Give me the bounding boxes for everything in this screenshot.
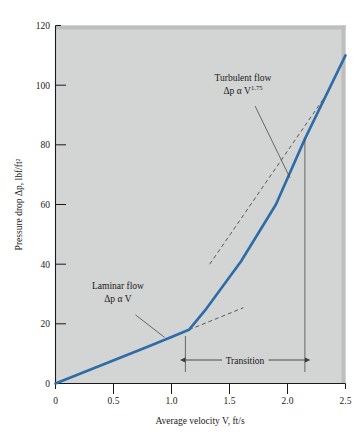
turbulent-flow-exponent: 1.75 [251, 84, 263, 91]
y-tick-label-80: 80 [41, 140, 51, 150]
plot-area-shadow-right [342, 26, 346, 384]
y-tick-label-100: 100 [36, 81, 51, 91]
x-axis-ticks [56, 384, 346, 395]
x-tick-label-2p0: 2.0 [282, 396, 294, 406]
y-axis-title: Pressure drop Δp, lbf/ft² [14, 158, 24, 250]
laminar-flow-label-line2: Δp α V [104, 294, 132, 304]
x-tick-label-0p5: 0.5 [108, 396, 120, 406]
turbulent-flow-label-line1: Turbulent flow [215, 73, 272, 83]
x-axis-title: Average velocity V, ft/s [155, 416, 244, 426]
turbulent-flow-formula: Δp α V [224, 86, 252, 96]
plot-area-shadow-top [56, 26, 346, 30]
x-tick-label-2p5: 2.5 [340, 396, 352, 406]
x-tick-label-0: 0 [53, 396, 58, 406]
x-tick-label-1p0: 1.0 [166, 396, 178, 406]
x-tick-label-1p5: 1.5 [224, 396, 236, 406]
figure-container: 0 20 40 60 80 100 120 0 0.5 1.0 1.5 2.0 … [0, 0, 362, 446]
laminar-flow-label-line1: Laminar flow [92, 281, 144, 291]
pressure-drop-chart: 0 20 40 60 80 100 120 0 0.5 1.0 1.5 2.0 … [0, 0, 362, 446]
plot-area-background [56, 26, 346, 384]
y-tick-label-0: 0 [45, 379, 50, 389]
transition-label: Transition [226, 356, 265, 366]
y-tick-label-20: 20 [41, 319, 51, 329]
y-tick-label-120: 120 [36, 21, 51, 31]
y-tick-label-60: 60 [41, 200, 51, 210]
y-tick-label-40: 40 [41, 260, 51, 270]
